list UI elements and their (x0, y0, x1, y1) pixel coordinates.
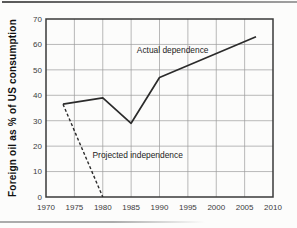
scan-artifact-bottom-line (0, 221, 205, 223)
y-tick-label: 0 (38, 193, 43, 202)
x-tick-label: 1990 (151, 203, 169, 212)
y-tick-label: 60 (33, 40, 42, 49)
y-tick-label: 50 (33, 66, 42, 75)
x-tick-label: 1985 (122, 203, 140, 212)
x-tick-label: 2010 (264, 203, 282, 212)
x-tick-label: 1995 (179, 203, 197, 212)
x-tick-label: 1970 (37, 203, 55, 212)
x-tick-label: 1975 (66, 203, 84, 212)
y-tick-label: 10 (33, 167, 42, 176)
x-tick-label: 2005 (236, 203, 254, 212)
x-tick-label: 1980 (94, 203, 112, 212)
y-tick-label: 70 (33, 15, 42, 24)
series-label-1: Projected independence (93, 150, 184, 160)
y-tick-label: 30 (33, 117, 42, 126)
y-tick-label: 40 (33, 91, 42, 100)
oil-dependence-chart: Foreign oil as % of US consumption Actua… (0, 0, 297, 228)
series-label-0: Actual dependence (137, 45, 209, 55)
x-tick-label: 2000 (207, 203, 225, 212)
chart-canvas: Actual dependenceProjected independence1… (0, 0, 297, 228)
y-tick-label: 20 (33, 142, 42, 151)
